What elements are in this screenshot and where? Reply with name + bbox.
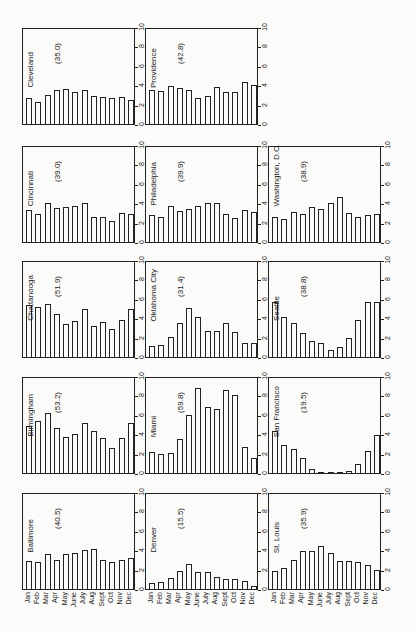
month-label: Mar: [165, 592, 172, 604]
bar-oct: [109, 562, 115, 589]
y-tick-label: 8: [138, 162, 145, 166]
bar-group: [147, 378, 256, 473]
month-label: Sept: [344, 592, 351, 606]
bar-feb: [35, 421, 41, 473]
bar-jan: [149, 215, 155, 242]
y-tick-label: 10: [261, 23, 268, 31]
bar-june: [195, 206, 201, 242]
y-tick-label: 6: [384, 529, 391, 533]
y-tick-label: 2: [384, 452, 391, 456]
chart-panel: Chattanooga(51.9): [22, 261, 135, 358]
bar-sept: [223, 390, 229, 473]
bar-july: [82, 423, 88, 473]
y-tick-label: 8: [261, 162, 268, 166]
y-axis: 0246810: [381, 493, 391, 590]
y-axis: 0246810: [258, 146, 268, 243]
bar-group: [147, 29, 256, 124]
month-label: Oct: [230, 592, 237, 603]
y-tick-label: 6: [138, 413, 145, 417]
month-label: May: [307, 592, 314, 605]
bar-group: [24, 147, 133, 242]
bar-sept: [100, 322, 106, 357]
bar-feb: [158, 454, 164, 473]
bar-june: [318, 209, 324, 242]
y-tick-label: 0: [261, 122, 268, 126]
y-tick-label: 0: [384, 355, 391, 359]
bar-oct: [232, 332, 238, 357]
bar-may: [63, 89, 69, 124]
month-label: Sept: [221, 592, 228, 606]
chart-panel: Oklahoma City(31.4): [145, 261, 258, 358]
bar-feb: [35, 562, 41, 589]
bar-nov: [365, 565, 371, 589]
bar-nov: [365, 215, 371, 242]
month-label: Nov: [239, 592, 246, 604]
bar-july: [328, 553, 334, 589]
month-label: Feb: [33, 592, 40, 604]
bar-may: [186, 415, 192, 473]
y-tick-label: 4: [138, 432, 145, 436]
bar-july: [82, 90, 88, 124]
city-label: Seattle: [272, 296, 281, 321]
bar-mar: [45, 413, 51, 473]
y-tick-label: 10: [138, 372, 145, 380]
y-tick-label: 10: [261, 256, 268, 264]
bar-apr: [300, 333, 306, 357]
bar-oct: [109, 221, 115, 242]
y-axis: 0246810: [258, 28, 268, 125]
annual-total-label: (35.0): [53, 43, 62, 64]
bar-may: [63, 554, 69, 589]
bar-jan: [149, 346, 155, 357]
bar-oct: [232, 92, 238, 124]
y-tick-label: 6: [138, 182, 145, 186]
y-tick-label: 8: [261, 277, 268, 281]
bar-feb: [158, 345, 164, 357]
bar-feb: [35, 307, 41, 357]
bar-aug: [91, 431, 97, 473]
annual-total-label: (59.8): [176, 392, 185, 413]
bar-june: [72, 92, 78, 124]
bar-group: [147, 147, 256, 242]
y-tick-label: 8: [384, 393, 391, 397]
bar-dec: [251, 586, 257, 589]
y-tick-label: 6: [384, 297, 391, 301]
month-label: Aug: [88, 592, 95, 604]
bar-may: [309, 551, 315, 589]
bar-apr: [54, 208, 60, 242]
y-tick-label: 4: [138, 83, 145, 87]
y-axis: 0246810: [135, 261, 145, 358]
bar-oct: [355, 562, 361, 589]
bar-aug: [337, 347, 343, 357]
y-tick-label: 2: [138, 452, 145, 456]
city-label: Cleveland: [26, 52, 35, 88]
y-tick-label: 10: [384, 141, 391, 149]
bar-aug: [337, 561, 343, 589]
y-tick-label: 2: [261, 103, 268, 107]
month-label: July: [79, 592, 86, 604]
bar-july: [205, 572, 211, 589]
bar-aug: [214, 87, 220, 124]
bar-dec: [128, 214, 134, 242]
bar-nov: [119, 320, 125, 357]
bar-oct: [109, 98, 115, 124]
bar-june: [72, 434, 78, 473]
y-tick-label: 10: [138, 23, 145, 31]
bar-aug: [214, 577, 220, 589]
y-tick-label: 0: [261, 240, 268, 244]
bar-aug: [91, 96, 97, 125]
bar-dec: [128, 558, 134, 589]
chart-panel: San Francisco(19.5): [268, 377, 381, 474]
bar-nov: [365, 451, 371, 473]
month-axis: JanFebMarAprMayJuneJulyAugSeptOctNovDec: [145, 590, 258, 626]
y-tick-label: 6: [138, 64, 145, 68]
bar-june: [195, 317, 201, 357]
y-tick-label: 4: [138, 316, 145, 320]
bar-oct: [109, 329, 115, 358]
month-label: May: [184, 592, 191, 605]
bar-apr: [300, 551, 306, 589]
y-tick-label: 6: [384, 413, 391, 417]
bar-aug: [214, 409, 220, 473]
bar-mar: [168, 337, 174, 357]
city-label: Denver: [149, 527, 158, 553]
y-tick-label: 4: [261, 201, 268, 205]
